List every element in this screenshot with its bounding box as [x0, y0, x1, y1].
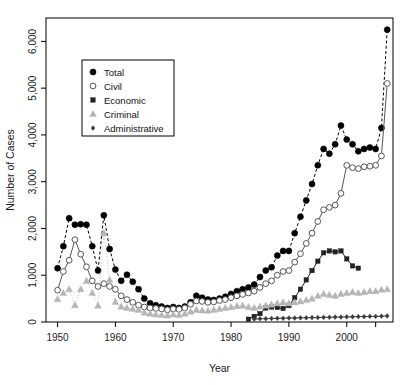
data-point: [315, 219, 321, 225]
data-point: [193, 298, 199, 304]
data-point: [118, 278, 124, 284]
data-point: [292, 259, 298, 265]
data-point: [367, 145, 373, 151]
data-point: [268, 301, 275, 307]
data-point: [316, 259, 321, 264]
data-point: [90, 83, 96, 89]
y-tick-label: 5,000: [27, 75, 38, 100]
data-point: [275, 316, 279, 321]
data-point: [327, 249, 332, 254]
data-point: [66, 286, 73, 292]
data-point: [217, 298, 223, 304]
data-point: [211, 299, 217, 305]
data-point: [367, 163, 373, 169]
data-point: [84, 264, 90, 270]
data-point: [297, 214, 303, 220]
data-point: [106, 276, 113, 282]
data-point: [118, 293, 124, 299]
data-point: [60, 269, 66, 275]
data-point: [187, 308, 194, 314]
data-point: [158, 311, 165, 317]
data-point: [298, 287, 303, 292]
data-point: [159, 306, 165, 312]
y-tick-label: 4,000: [27, 122, 38, 147]
data-point: [239, 302, 246, 308]
data-point: [269, 278, 275, 284]
data-point: [280, 299, 287, 305]
data-point: [246, 317, 251, 322]
data-point: [355, 166, 361, 172]
x-axis-label: Year: [209, 362, 231, 374]
data-point: [95, 284, 101, 290]
y-tick-label: 1,000: [27, 262, 38, 287]
data-point: [281, 316, 285, 321]
data-point: [344, 162, 350, 168]
data-point: [309, 230, 315, 236]
data-point: [245, 303, 252, 309]
y-tick-label: 0: [27, 319, 38, 325]
data-point: [314, 292, 321, 298]
data-point: [303, 241, 309, 247]
data-point: [304, 315, 308, 320]
data-point: [72, 237, 78, 243]
data-point: [257, 284, 263, 290]
data-point: [322, 315, 326, 320]
data-point: [333, 250, 338, 255]
series-line: [254, 316, 387, 319]
data-point: [361, 146, 367, 152]
data-point: [280, 248, 286, 254]
data-point: [287, 316, 291, 321]
data-point: [379, 153, 385, 159]
data-point: [193, 306, 200, 312]
y-axis-label: Number of Cases: [4, 129, 16, 211]
data-point: [95, 302, 102, 308]
data-point: [355, 148, 361, 154]
x-tick-label: 2000: [336, 332, 359, 343]
data-point: [327, 315, 331, 320]
data-point: [234, 293, 240, 299]
data-point: [176, 311, 183, 317]
data-point: [321, 146, 327, 152]
data-point: [361, 164, 367, 170]
data-point: [326, 205, 332, 211]
data-point: [339, 249, 344, 254]
data-point: [374, 314, 378, 319]
data-point: [380, 314, 384, 319]
data-point: [368, 314, 372, 319]
data-point: [274, 272, 280, 278]
data-point: [188, 301, 194, 307]
legend-label: Criminal: [104, 109, 139, 120]
data-point: [286, 268, 292, 274]
data-point: [320, 290, 327, 296]
data-point: [263, 281, 269, 287]
series-administrative: [252, 314, 389, 322]
x-tick-label: 1990: [278, 332, 301, 343]
data-point: [263, 268, 269, 274]
data-point: [350, 165, 356, 171]
data-point: [344, 257, 349, 262]
data-point: [124, 297, 130, 303]
data-point: [316, 315, 320, 320]
data-point: [83, 222, 89, 228]
data-point: [270, 316, 274, 321]
data-point: [297, 298, 304, 304]
data-point: [95, 268, 101, 274]
data-point: [326, 151, 332, 157]
data-point: [309, 181, 315, 187]
y-tick-label: 3,000: [27, 169, 38, 194]
data-point: [280, 269, 286, 275]
data-point: [222, 297, 228, 303]
x-tick-label: 1970: [162, 332, 185, 343]
legend-label: Total: [104, 67, 124, 78]
data-point: [251, 282, 257, 288]
data-point: [338, 190, 344, 196]
legend-label: Civil: [104, 81, 122, 92]
data-point: [339, 315, 343, 320]
data-point: [66, 257, 72, 263]
x-tick-label: 1950: [46, 332, 69, 343]
y-tick-label: 6,000: [27, 28, 38, 53]
data-point: [362, 314, 366, 319]
data-point: [264, 316, 268, 321]
data-point: [170, 311, 177, 317]
chart-figure: 01,0002,0003,0004,0005,0006,000195019601…: [0, 0, 406, 385]
